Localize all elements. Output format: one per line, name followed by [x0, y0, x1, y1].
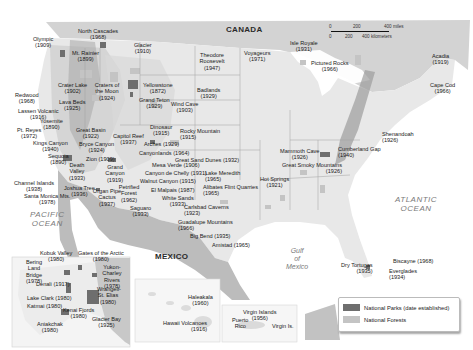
park-label: Yosemite(1890): [40, 118, 63, 131]
park-label: North Cascades(1968): [78, 28, 118, 41]
park-name: Lake Clark: [27, 295, 54, 301]
park-year: 1978: [41, 199, 53, 205]
park-label: Kings Canyon(1940): [33, 140, 68, 153]
virgin-is-label: Virgin Is.: [272, 323, 294, 329]
park-label: Walnut Canyon (1915): [140, 178, 196, 184]
park-label: Olympic(1909): [33, 36, 53, 49]
park-year: 1931: [298, 46, 310, 52]
park-year: 1925: [100, 322, 112, 328]
park-year: 1926: [294, 154, 306, 160]
park-label: El Malpais (1987): [151, 187, 195, 193]
park-label: Pt. Reyes(1972): [17, 127, 41, 140]
park-year: 1931: [193, 170, 205, 176]
ocean-label-pacific: PACIFIC OCEAN: [30, 210, 64, 228]
park-name: Alibates Flint Quarries: [203, 184, 258, 190]
park-label: Yellowstone(1872): [143, 82, 173, 95]
park-year: 1968: [21, 98, 33, 104]
park-year: 1917: [55, 281, 67, 287]
park-label: Canyonlands (1964): [139, 150, 189, 156]
park-name: Glacier: [134, 42, 152, 48]
park-name: Mt. Rainier: [72, 50, 99, 56]
park-name: Kobuk Valley: [40, 250, 72, 256]
park-name: Hawaii Volcanoes: [163, 320, 207, 326]
park-name: Big Bend: [190, 233, 213, 239]
park-name: Grand Teton: [139, 97, 170, 103]
park-year: 1947: [206, 65, 218, 71]
alaska-park-label: Lake Clark (1980): [27, 295, 72, 301]
park-year: 1929: [202, 93, 214, 99]
park-year: 1921: [268, 182, 280, 188]
park-label: Crater Lake(1902): [58, 82, 87, 95]
scale-mile-400: 400 miles: [384, 24, 404, 29]
park-year: 1940: [44, 146, 56, 152]
park-label: Lake Meredith(1965): [205, 170, 240, 183]
country-label-mexico: MEXICO: [155, 252, 188, 261]
park-name: Wind Cave: [171, 101, 198, 107]
park-year: 1910: [137, 48, 149, 54]
park-year: 1915: [182, 134, 194, 140]
park-name: Dry Tortugas: [341, 262, 373, 268]
alaska-park-label: Wrangell-St. Elias(1980): [97, 286, 119, 305]
alaska-park-label: Denali (1917): [36, 281, 70, 287]
park-year: 1915: [155, 130, 167, 136]
legend-label-parks: National Parks (date established): [364, 305, 449, 311]
park-year: 1936: [73, 191, 85, 197]
park-label: Rocky Mountain(1915): [180, 128, 220, 141]
park-label: Canyon de Chelly (1931): [145, 170, 207, 176]
park-name: Redwood: [15, 92, 39, 98]
park-label: Redwood(1968): [15, 92, 39, 105]
park-year: 1966: [436, 88, 448, 94]
park-name: Canyonlands: [139, 150, 172, 156]
park-name: Saguaro: [130, 205, 151, 211]
park-year: 1909: [37, 42, 49, 48]
scale-km-0: 0: [329, 34, 332, 39]
park-year: 1933: [172, 201, 184, 207]
park-label: Glacier(1910): [134, 42, 152, 55]
park-name: Capitol Reef: [113, 133, 144, 139]
park-year: 1966: [324, 66, 336, 72]
park-name: Bryce Canyon: [79, 141, 114, 147]
park-year: 1968: [92, 34, 104, 40]
park-label: Mammoth Cave(1926): [280, 148, 319, 161]
park-label: Arches (1929): [144, 141, 179, 147]
park-year: 1937: [101, 201, 113, 207]
park-name: Olympic: [33, 36, 53, 42]
alaska-park-label: Katmai (1980): [27, 303, 62, 309]
park-label: Big Bend (1935): [190, 233, 230, 239]
park-year: 1890: [45, 124, 57, 130]
park-year: 1940: [340, 152, 352, 158]
park-year: 1971: [251, 56, 263, 62]
park-name: Dinosaur: [150, 124, 172, 130]
park-label: Great Smoky Mountains(1926): [282, 162, 342, 175]
park-name: Carlsbad Caverns: [184, 204, 229, 210]
park-name: Glacier Bay: [92, 316, 121, 322]
legend: National Parks (date established) Nation…: [338, 297, 460, 332]
park-name: Cape Cod: [430, 82, 455, 88]
alaska-park-label: Glacier Bay(1925): [92, 316, 121, 329]
park-name: Walnut Canyon: [140, 178, 178, 184]
park-name: Rocky Mountain: [180, 128, 220, 134]
park-year: 1926: [384, 137, 396, 143]
park-label: Wind Cave(1903): [171, 101, 198, 114]
park-label: Amistad (1965): [212, 242, 250, 248]
park-name: Cumberland Gap: [338, 146, 381, 152]
park-name: Haleakala: [188, 294, 213, 300]
park-name: Denali: [36, 281, 52, 287]
park-name: Kenai Fjords: [63, 307, 94, 313]
scale-km-200: 200: [345, 34, 353, 39]
country-label-canada: CANADA: [226, 25, 262, 34]
park-year: 1966: [180, 225, 192, 231]
park-year: 1965: [236, 242, 248, 248]
park-name: Mesa Verde: [152, 162, 182, 168]
park-year: 1987: [180, 187, 192, 193]
scale-bar: 0 200 400 miles 0 200 400 kilometers: [329, 21, 409, 45]
park-year: 1937: [122, 139, 134, 145]
park-year: 1935: [216, 233, 228, 239]
park-year: 1934: [391, 274, 403, 280]
park-name: Arches: [144, 141, 161, 147]
park-year: 1965: [205, 190, 217, 196]
park-year: 1935: [358, 268, 370, 274]
park-name: North Cascades: [78, 28, 118, 34]
park-year: 1980: [48, 303, 60, 309]
park-label: Channel Islands(1938): [14, 180, 54, 193]
